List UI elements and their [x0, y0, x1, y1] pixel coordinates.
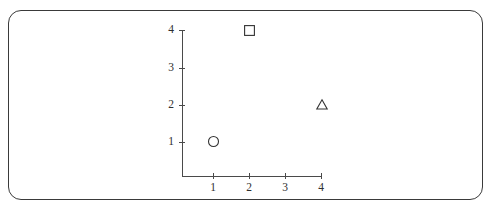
y-axis-line: [182, 30, 183, 176]
y-tick-1: [179, 142, 185, 143]
square-marker-icon: [243, 24, 256, 37]
figure-container: 4 3 2 1 1 2 3 4: [0, 0, 495, 212]
x-tick-1: [213, 173, 214, 179]
y-tick-label-1: 1: [160, 136, 174, 148]
x-tick-label-1: 1: [206, 182, 220, 194]
x-tick-2: [249, 173, 250, 179]
x-tick-label-3: 3: [278, 182, 292, 194]
x-tick-4: [321, 173, 322, 179]
x-axis-line: [182, 176, 322, 177]
y-tick-3: [179, 68, 185, 69]
data-point-square: [243, 24, 256, 37]
y-tick-4: [179, 30, 185, 31]
x-tick-3: [285, 173, 286, 179]
triangle-marker-icon: [315, 98, 329, 111]
x-tick-label-2: 2: [242, 182, 256, 194]
y-tick-label-4: 4: [160, 24, 174, 36]
y-tick-2: [179, 105, 185, 106]
data-point-triangle: [315, 98, 329, 111]
plot-area: 4 3 2 1 1 2 3 4: [0, 0, 495, 212]
y-tick-label-3: 3: [160, 62, 174, 74]
y-tick-label-2: 2: [160, 99, 174, 111]
x-tick-label-4: 4: [314, 182, 328, 194]
circle-marker-icon: [207, 135, 220, 148]
data-point-circle: [207, 135, 220, 148]
